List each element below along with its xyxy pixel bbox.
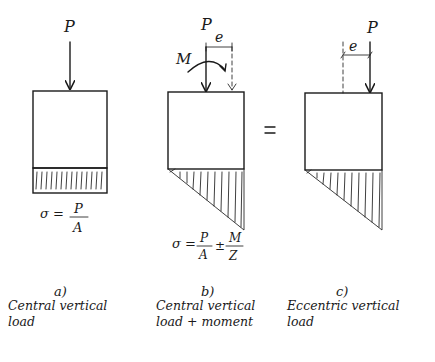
panel-b: P e M σ = P (168, 15, 244, 263)
formula-op-b: ± (215, 239, 225, 253)
panel-c-letter: c) (336, 284, 348, 299)
panel-a: P σ = P A (33, 17, 107, 235)
formula-num2-b: M (228, 231, 242, 245)
formula-lhs-b: σ = (172, 236, 196, 251)
formula-den-a: A (72, 220, 82, 235)
eccentricity-label-c: e (349, 38, 357, 54)
equals-sign (265, 127, 275, 133)
panel-a-letter: a) (54, 284, 67, 299)
formula-num-a: P (73, 201, 83, 216)
hatch-uniform (36, 172, 102, 189)
formula-den1-b: A (198, 248, 208, 262)
panel-a-caption-line1: Central vertical (8, 298, 107, 313)
hatch-triangle-b (170, 169, 242, 227)
panel-c: P e (305, 18, 382, 230)
formula-den2-b: Z (228, 249, 238, 263)
block-c (305, 93, 382, 170)
load-label-p-a: P (63, 17, 75, 36)
load-label-p-c: P (366, 18, 378, 37)
panel-c-caption-line2: load (287, 314, 314, 329)
moment-label: M (175, 50, 192, 68)
panel-b-letter: b) (201, 284, 214, 299)
panel-b-caption-line1: Central vertical (156, 298, 255, 313)
formula-lhs-a: σ = (40, 206, 64, 221)
formula-num1-b: P (199, 231, 209, 245)
panel-b-caption-line2: load + moment (156, 314, 253, 329)
panel-c-caption-line1: Eccentric vertical (287, 298, 399, 313)
block-a (33, 91, 107, 168)
load-label-p-b: P (200, 15, 212, 34)
stress-triangle-c (305, 170, 382, 230)
block-b (168, 92, 244, 169)
eccentricity-label-b: e (215, 29, 223, 45)
panel-a-caption-line2: load (8, 314, 35, 329)
hatch-triangle-c (307, 170, 380, 227)
stress-triangle-b (168, 169, 244, 230)
